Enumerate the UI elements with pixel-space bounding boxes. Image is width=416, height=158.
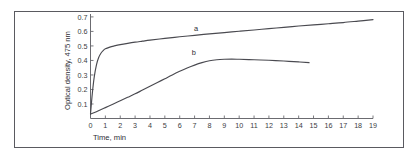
x-tick-label: 10 [235, 121, 243, 130]
x-tick-label: 17 [339, 121, 347, 130]
x-tick-label: 14 [295, 121, 303, 130]
line-chart: 012345678910111213141516171819 0.10.20.3… [0, 0, 416, 158]
x-tick-label: 11 [250, 121, 257, 130]
x-tick-label: 0 [89, 121, 93, 130]
x-tick-label: 15 [310, 121, 318, 130]
curve-a [91, 20, 374, 114]
x-tick-label: 18 [354, 121, 362, 130]
x-tick-label: 12 [265, 121, 273, 130]
x-tick-label: 19 [369, 121, 377, 130]
y-axis-title: Optical density, 475 nm [63, 31, 72, 110]
curve-labels: ab [192, 24, 199, 57]
axes [91, 14, 374, 119]
x-tick-label: 9 [222, 121, 226, 130]
y-tick-label: 0.2 [78, 85, 88, 94]
x-tick-label: 6 [178, 121, 182, 130]
x-tick-label: 13 [280, 121, 288, 130]
curve-b [91, 59, 310, 114]
y-tick-label: 0.3 [78, 71, 88, 80]
y-tick-label: 0.1 [78, 100, 88, 109]
y-tick-label: 0.5 [78, 42, 88, 51]
x-tick-label: 3 [133, 121, 137, 130]
x-axis-tick-labels: 012345678910111213141516171819 [89, 121, 378, 130]
y-axis-tick-labels: 0.10.20.30.40.50.60.7 [78, 13, 88, 109]
x-tick-label: 1 [103, 121, 107, 130]
figure-root: 012345678910111213141516171819 0.10.20.3… [0, 0, 416, 158]
curve-label-a: a [194, 24, 199, 33]
x-tick-label: 8 [207, 121, 211, 130]
x-tick-label: 5 [163, 121, 167, 130]
data-curves [91, 20, 374, 114]
x-tick-label: 4 [148, 121, 152, 130]
x-axis-title: Time, min [93, 133, 126, 142]
x-tick-label: 2 [118, 121, 122, 130]
x-tick-label: 7 [193, 121, 197, 130]
x-tick-label: 16 [324, 121, 332, 130]
y-tick-label: 0.6 [78, 27, 88, 36]
curve-label-b: b [192, 48, 196, 57]
y-tick-label: 0.7 [78, 13, 88, 22]
y-tick-label: 0.4 [78, 56, 88, 65]
